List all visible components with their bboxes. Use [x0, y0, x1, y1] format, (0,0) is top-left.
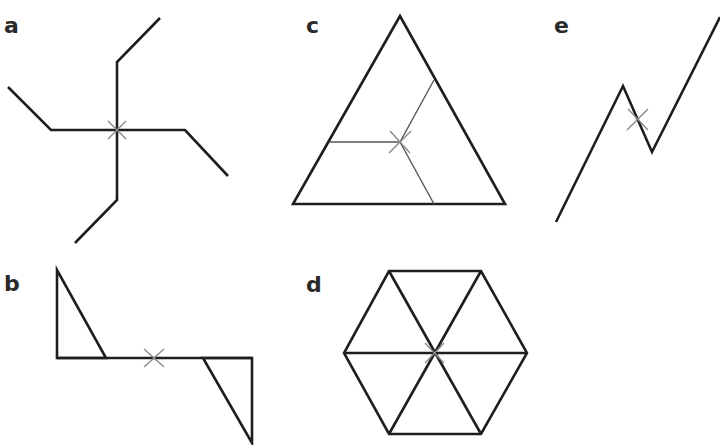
panel-c: c [293, 13, 505, 204]
panel-label-b: b [4, 271, 20, 296]
panel-label-a: a [4, 13, 19, 38]
symmetry-diagram: a b c d [0, 0, 720, 445]
rotation-center-mark-icon [627, 109, 648, 130]
left-triangle [57, 270, 106, 358]
panel-a: a [4, 13, 228, 243]
panel-d: d [306, 271, 527, 434]
panel-label-e: e [554, 13, 569, 38]
panel-e: e [554, 13, 720, 222]
equilateral-triangle [293, 16, 505, 204]
panel-label-c: c [306, 13, 319, 38]
right-triangle [203, 358, 252, 443]
centroid-segment-upper-right [400, 80, 434, 142]
centroid-segment-lower [400, 142, 434, 204]
panel-b: b [4, 270, 252, 443]
panel-label-d: d [306, 272, 322, 297]
